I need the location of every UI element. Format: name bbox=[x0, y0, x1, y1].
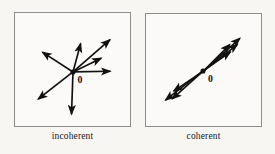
vector-up-right-long bbox=[73, 40, 110, 72]
caption-incoherent: incoherent bbox=[14, 131, 131, 141]
vector-down bbox=[72, 72, 73, 114]
vector-up-right-4 bbox=[204, 52, 231, 71]
origin-label: 0 bbox=[208, 73, 213, 84]
vector-down-left-3 bbox=[174, 71, 203, 91]
origin-label: 0 bbox=[77, 74, 82, 85]
caption-coherent: coherent bbox=[145, 131, 262, 141]
vector-down-left bbox=[38, 72, 73, 99]
incoherent-vector-group bbox=[38, 40, 110, 114]
origin-node bbox=[200, 68, 205, 73]
incoherent-vector-diagram: 0 bbox=[15, 13, 130, 126]
vector-up-left bbox=[42, 52, 73, 72]
coherent-vector-diagram: 0 bbox=[146, 14, 261, 126]
origin-node bbox=[70, 69, 75, 74]
panel-incoherent: 0 bbox=[14, 12, 131, 127]
panel-coherent: 0 bbox=[145, 13, 262, 127]
figure-root: 0 0 inco bbox=[0, 0, 275, 154]
vector-right bbox=[73, 71, 110, 72]
